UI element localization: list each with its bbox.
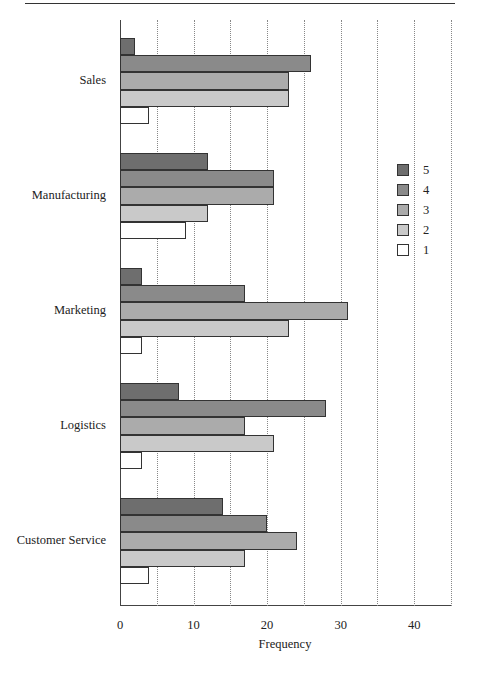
category-label: Sales [80, 73, 106, 88]
legend-item: 5 [397, 160, 429, 180]
bar: 23 [120, 72, 289, 89]
legend-swatch-icon [397, 184, 409, 196]
bar: 4 [120, 567, 149, 584]
x-tick-label: 40 [408, 618, 421, 633]
legend-label: 1 [423, 243, 429, 258]
legend-label: 4 [423, 183, 429, 198]
gridline [377, 20, 378, 606]
legend-item: 2 [397, 220, 429, 240]
legend-swatch-icon [397, 164, 409, 176]
bar: 2 [120, 38, 135, 55]
bar: 4 [120, 107, 149, 124]
bar: 31 [120, 302, 348, 319]
bar: 21 [120, 435, 274, 452]
legend-item: 3 [397, 200, 429, 220]
bar: 23 [120, 90, 289, 107]
category-label: Logistics [60, 418, 106, 433]
bar: 8 [120, 383, 179, 400]
bar: 28 [120, 400, 326, 417]
x-tick-label: 0 [117, 618, 123, 633]
bar: 17 [120, 285, 245, 302]
legend-label: 2 [423, 223, 429, 238]
x-axis-title: Frequency [259, 637, 312, 652]
gridline [414, 20, 415, 606]
category-label: Manufacturing [32, 188, 106, 203]
x-tick-label: 20 [261, 618, 274, 633]
legend-item: 4 [397, 180, 429, 200]
plot-area: 2262323412212112931731233828172131420241… [120, 20, 451, 606]
bar: 26 [120, 55, 311, 72]
x-axis [120, 605, 451, 606]
bar: 12 [120, 153, 208, 170]
legend-label: 5 [423, 163, 429, 178]
bar: 23 [120, 320, 289, 337]
gridline [451, 20, 452, 606]
bar: 14 [120, 498, 223, 515]
legend: 54321 [397, 160, 429, 260]
legend-item: 1 [397, 240, 429, 260]
x-tick-label: 10 [187, 618, 200, 633]
bar: 3 [120, 268, 142, 285]
bar: 17 [120, 417, 245, 434]
bar: 21 [120, 170, 274, 187]
bar: 21 [120, 187, 274, 204]
bar: 12 [120, 205, 208, 222]
category-label: Marketing [54, 303, 106, 318]
bar: 17 [120, 550, 245, 567]
top-rule [25, 3, 455, 4]
legend-swatch-icon [397, 244, 409, 256]
bar: 3 [120, 452, 142, 469]
bar: 3 [120, 337, 142, 354]
bar: 20 [120, 515, 267, 532]
x-tick-label: 30 [334, 618, 347, 633]
bar: 9 [120, 222, 186, 239]
category-label: Customer Service [17, 533, 106, 548]
legend-label: 3 [423, 203, 429, 218]
legend-swatch-icon [397, 224, 409, 236]
legend-swatch-icon [397, 204, 409, 216]
bar: 24 [120, 532, 297, 549]
